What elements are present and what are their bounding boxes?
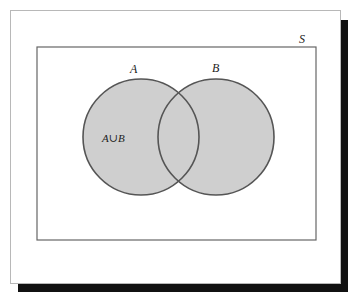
set-a-label: A [129, 62, 138, 76]
universe-label: S [299, 32, 305, 46]
set-b-label: B [212, 61, 220, 75]
union-region-label: A∪B [101, 132, 125, 144]
venn-diagram: S A B A∪B [0, 0, 352, 300]
